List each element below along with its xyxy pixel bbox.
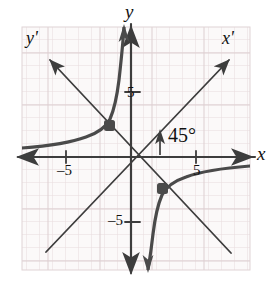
vertex-upper-left (104, 120, 115, 131)
y-prime-axis-label: y' (26, 29, 38, 47)
tick-label-y-neg5: –5 (108, 213, 123, 228)
hyperbola-rotated-axes-figure: y x y' x' –5 5 5 –5 45° (0, 0, 278, 284)
tick-label-y-pos5: 5 (127, 85, 135, 100)
x-axis-label: x (257, 144, 265, 163)
tick-label-x-pos5: 5 (193, 163, 201, 178)
x-prime-axis-label: x' (222, 29, 234, 47)
tick-label-x-neg5: –5 (57, 163, 72, 178)
y-axis-label: y (125, 2, 133, 21)
angle-label-45: 45° (168, 125, 196, 145)
plot-grid (22, 27, 250, 270)
vertex-lower-right (157, 183, 168, 194)
graph-canvas (0, 0, 278, 284)
